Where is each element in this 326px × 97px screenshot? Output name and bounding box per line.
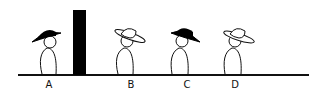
label-d: D — [231, 79, 239, 90]
figure-d — [223, 29, 256, 74]
figure-b — [114, 27, 146, 74]
wall — [73, 10, 86, 75]
label-a: A — [46, 79, 53, 90]
label-b: B — [128, 79, 135, 90]
label-c: C — [184, 79, 191, 90]
figure-c — [171, 28, 200, 74]
figure-a — [32, 30, 61, 74]
